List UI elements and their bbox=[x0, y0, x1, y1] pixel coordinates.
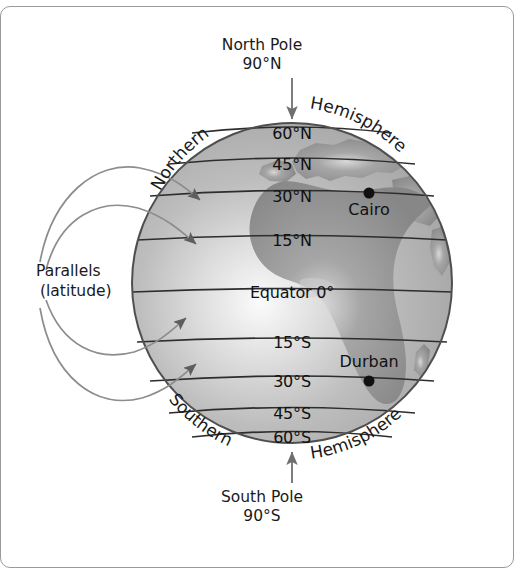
parallels-callout-line1: Parallels bbox=[36, 262, 101, 280]
north-pole-coordinate: 90°N bbox=[0, 55, 524, 73]
south-pole-coordinate: 90°S bbox=[0, 507, 524, 525]
city-label-durban: Durban bbox=[339, 352, 398, 371]
parallel-label-45S: 45°S bbox=[267, 404, 317, 423]
parallel-label-30S: 30°S bbox=[267, 372, 317, 391]
south-pole-label: South Pole bbox=[0, 488, 524, 506]
parallel-label-Equator0: Equator 0° bbox=[244, 283, 340, 302]
parallel-label-15N: 15°N bbox=[266, 231, 318, 250]
parallel-label-60S: 60°S bbox=[267, 428, 317, 447]
city-label-cairo: Cairo bbox=[348, 200, 389, 219]
parallel-label-15S: 15°S bbox=[267, 333, 317, 352]
durban-dot bbox=[364, 376, 375, 387]
parallel-label-45N: 45°N bbox=[266, 155, 318, 174]
parallels-callout-line2: (latitude) bbox=[40, 282, 112, 300]
parallel-label-30N: 30°N bbox=[266, 187, 318, 206]
cairo-dot bbox=[364, 188, 375, 199]
parallel-label-60N: 60°N bbox=[266, 124, 318, 143]
north-pole-label: North Pole bbox=[0, 36, 524, 54]
